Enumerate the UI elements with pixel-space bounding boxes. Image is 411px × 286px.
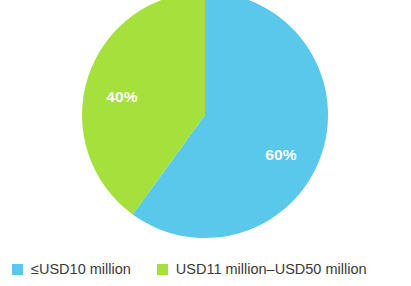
legend-label-usd11-to-usd50-million: USD11 million–USD50 million: [176, 262, 367, 277]
legend-item-usd11-to-usd50-million[interactable]: USD11 million–USD50 million: [157, 262, 367, 277]
legend-swatch-blue: [12, 264, 23, 275]
pie-plot-area: 40% 60%: [0, 0, 411, 244]
pie-slice-label-green: 40%: [106, 88, 138, 105]
legend-label-usd10-million: ≤USD10 million: [31, 262, 131, 277]
pie-chart-figure: 40% 60% ≤USD10 million USD11 million–USD…: [0, 0, 411, 286]
legend-item-usd10-million[interactable]: ≤USD10 million: [12, 262, 131, 277]
pie-slice-label-blue: 60%: [265, 146, 297, 163]
pie-chart-svg: 40% 60%: [0, 0, 411, 244]
legend-swatch-green: [157, 264, 168, 275]
chart-legend: ≤USD10 million USD11 million–USD50 milli…: [0, 252, 411, 286]
